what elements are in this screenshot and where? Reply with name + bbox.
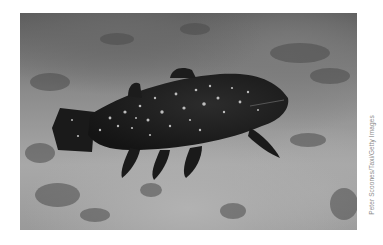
coelacanth-fish [0, 0, 383, 245]
photo-credit: Peter Scoones/Taxi/Getty Images [368, 115, 375, 215]
anal-fin [184, 146, 202, 178]
pectoral-fin [248, 128, 280, 158]
pelvic-fin [121, 148, 140, 178]
pelvic-fin [152, 150, 170, 180]
dorsal-fin [170, 68, 196, 78]
dorsal-fin [128, 83, 142, 98]
